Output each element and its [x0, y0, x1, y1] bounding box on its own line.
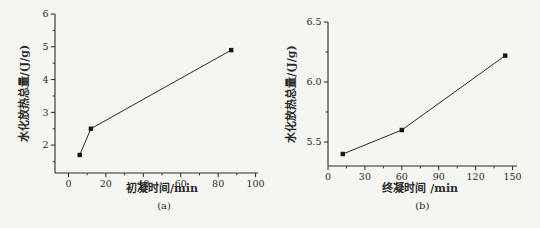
x-tick-label: 0: [325, 171, 331, 182]
y-axis-label: 水化放热总量/(J/g): [17, 45, 31, 142]
data-point-marker: [341, 152, 345, 156]
data-point-marker: [89, 127, 93, 131]
x-tick-label: 150: [504, 171, 522, 182]
chart-caption: (b): [415, 200, 429, 211]
data-line: [80, 50, 232, 155]
y-tick-label: 6: [42, 8, 48, 19]
y-tick-label: 3: [42, 107, 48, 118]
chart-caption: (a): [157, 200, 171, 211]
data-point-marker: [78, 153, 82, 157]
x-axis-label: 终凝时间 /min: [382, 181, 458, 195]
x-tick-label: 100: [246, 178, 264, 189]
chart-a: 02040608010023456初凝时间/min(a)水化放热总量/(J/g): [17, 8, 265, 211]
x-tick-label: 20: [100, 178, 112, 189]
y-tick-label: 2: [42, 139, 48, 150]
data-point-marker: [229, 48, 233, 52]
data-point-marker: [400, 128, 404, 132]
figure-canvas: 02040608010023456初凝时间/min(a)水化放热总量/(J/g)…: [0, 0, 540, 228]
data-line: [343, 56, 505, 154]
x-tick-label: 0: [65, 178, 71, 189]
data-point-marker: [503, 53, 507, 57]
y-tick-label: 6.5: [306, 16, 321, 27]
x-tick-label: 80: [212, 178, 224, 189]
y-tick-label: 4: [42, 74, 48, 85]
x-tick-label: 90: [433, 171, 445, 182]
x-axis-label: 初凝时间/min: [126, 181, 198, 195]
y-axis-label: 水化放热总量/(J/g): [284, 45, 298, 142]
chart-b: 03060901201505.56.06.5终凝时间 /min(b)水化放热总量…: [284, 16, 522, 211]
y-tick-label: 5.5: [306, 136, 321, 147]
x-tick-label: 120: [467, 171, 485, 182]
y-tick-label: 6.0: [306, 76, 321, 87]
y-tick-label: 5: [42, 41, 48, 52]
x-tick-label: 60: [396, 171, 408, 182]
dual-line-chart-figure: 02040608010023456初凝时间/min(a)水化放热总量/(J/g)…: [0, 0, 540, 228]
x-tick-label: 30: [359, 171, 371, 182]
